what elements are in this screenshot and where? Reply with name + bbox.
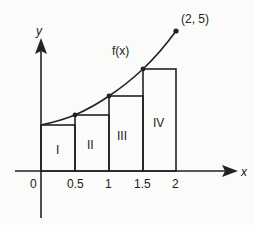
- endpoint-label: (2, 5): [181, 12, 209, 26]
- x-tick-label: 0.5: [67, 177, 84, 191]
- x-axis-label: x: [240, 165, 248, 179]
- point-marker: [141, 67, 146, 72]
- riemann-sum-diagram: y x f(x) (2, 5) 0 0.5 1 1.5 2 I II III I…: [0, 0, 255, 225]
- rectangle-label: IV: [153, 116, 164, 130]
- rectangle-label: I: [56, 143, 59, 157]
- rectangle-label: III: [117, 129, 127, 143]
- function-label: f(x): [112, 44, 129, 58]
- point-marker: [107, 94, 112, 99]
- curve-points: [73, 28, 179, 117]
- endpoint-marker: [173, 28, 178, 33]
- y-axis-label: y: [35, 24, 43, 38]
- rectangle-label: II: [87, 138, 94, 152]
- x-tick-label: 0: [30, 177, 37, 191]
- x-tick-label: 1.5: [134, 177, 151, 191]
- x-tick-label: 2: [172, 177, 179, 191]
- x-tick-label: 1: [105, 177, 112, 191]
- point-marker: [73, 113, 78, 118]
